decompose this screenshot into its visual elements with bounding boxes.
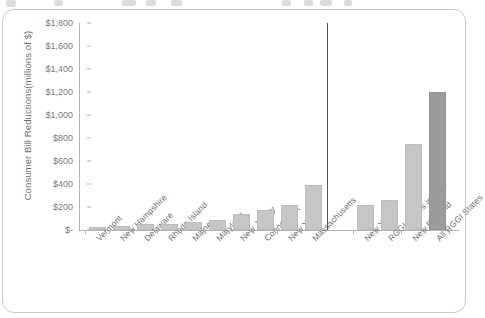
bar[interactable] xyxy=(405,144,422,230)
bar[interactable] xyxy=(429,92,446,230)
x-axis-tick-mark xyxy=(229,230,230,234)
bar-chart-plot: Consumer Bill Reductions(millions of $) … xyxy=(3,10,467,314)
x-axis-tick-mark xyxy=(109,230,110,234)
x-axis-tick-mark xyxy=(157,230,158,234)
x-axis-tick-mark xyxy=(181,230,182,234)
x-axis-tick-mark xyxy=(353,230,354,234)
cut-off-toolbar-strip xyxy=(0,0,470,9)
x-axis-tick-mark xyxy=(85,230,86,234)
chart-card: Consumer Bill Reductions(millions of $) … xyxy=(2,9,466,313)
x-axis-tick-mark xyxy=(133,230,134,234)
x-axis-tick-mark xyxy=(377,230,378,234)
x-axis-tick-mark xyxy=(205,230,206,234)
x-axis-tick-mark xyxy=(301,230,302,234)
x-axis-tick-mark xyxy=(277,230,278,234)
bars-layer: VermontNew HampshireDelawareRhode Island… xyxy=(3,10,467,314)
bar[interactable] xyxy=(305,185,322,230)
x-axis-tick-mark xyxy=(425,230,426,234)
x-axis-tick-mark xyxy=(401,230,402,234)
x-axis-tick-mark xyxy=(253,230,254,234)
group-separator-line xyxy=(327,23,328,230)
